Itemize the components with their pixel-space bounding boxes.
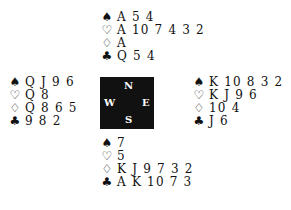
club-icon: ♣: [9, 115, 22, 128]
west-clubs-row: ♣ 9 8 2: [9, 115, 78, 128]
east-diamonds-row: ♢ 10 4: [193, 102, 283, 115]
south-clubs-row: ♣ A K 10 7 3: [101, 176, 194, 189]
south-spades-row: ♠ 7: [101, 137, 194, 150]
north-hearts: A 10 7 4 3 2: [117, 24, 205, 37]
compass-west-label: W: [104, 98, 115, 108]
club-icon: ♣: [193, 115, 206, 128]
north-hand: ♠ A 5 4 ♡ A 10 7 4 3 2 ♢ A ♣ Q 5 4: [101, 11, 205, 63]
club-icon: ♣: [101, 176, 114, 189]
compass-south-label: S: [125, 115, 132, 125]
east-clubs: J 6: [209, 115, 229, 128]
east-clubs-row: ♣ J 6: [193, 115, 283, 128]
south-hand: ♠ 7 ♡ 5 ♢ K J 9 7 3 2 ♣ A K 10 7 3: [101, 137, 194, 189]
compass-table: N W E S: [100, 77, 154, 129]
west-hand: ♠ Q J 9 6 ♡ Q 8 ♢ Q 8 6 5 ♣ 9 8 2: [9, 76, 78, 128]
east-hand: ♠ K 10 8 3 2 ♡ K J 9 6 ♢ 10 4 ♣ J 6: [193, 76, 283, 128]
west-clubs: 9 8 2: [25, 115, 62, 128]
north-clubs-row: ♣ Q 5 4: [101, 50, 205, 63]
south-clubs: A K 10 7 3: [117, 176, 192, 189]
compass-north-label: N: [124, 81, 133, 91]
club-icon: ♣: [101, 50, 114, 63]
compass-east-label: E: [142, 98, 150, 108]
north-clubs: Q 5 4: [117, 50, 156, 63]
